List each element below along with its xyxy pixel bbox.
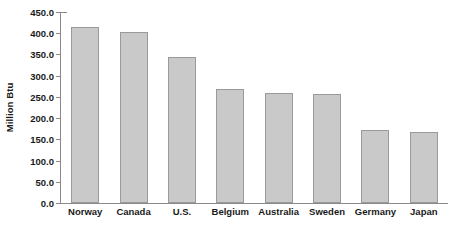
y-axis-tick-label: 0.0 <box>18 198 54 209</box>
x-axis-category-label: U.S. <box>158 206 206 217</box>
bar <box>168 57 196 203</box>
y-axis-title: Million Btu <box>0 0 20 215</box>
bar <box>410 132 438 203</box>
y-axis-tick-labels: 0.050.0100.0150.0200.0250.0300.0350.0400… <box>18 0 54 215</box>
bar-chart: Million Btu 0.050.0100.0150.0200.0250.03… <box>0 0 450 243</box>
y-axis-title-text: Million Btu <box>5 83 16 133</box>
bar-group <box>168 12 196 203</box>
bar-group <box>216 12 244 203</box>
y-axis-tick-label: 300.0 <box>18 70 54 81</box>
bar-group <box>313 12 341 203</box>
bar-group <box>120 12 148 203</box>
x-axis-category-label: Australia <box>255 206 303 217</box>
y-axis-tick-label: 50.0 <box>18 176 54 187</box>
y-axis-tick-label: 250.0 <box>18 91 54 102</box>
x-axis-category-labels: NorwayCanadaU.S.BelgiumAustraliaSwedenGe… <box>61 206 448 226</box>
bar <box>265 93 293 203</box>
y-axis-tick-label: 200.0 <box>18 113 54 124</box>
bar-group <box>71 12 99 203</box>
bar-group <box>361 12 389 203</box>
y-axis-tick-label: 100.0 <box>18 155 54 166</box>
x-axis-category-label: Germany <box>351 206 399 217</box>
bar <box>313 94 341 203</box>
bar <box>120 32 148 203</box>
bar <box>71 27 99 203</box>
bar-group <box>265 12 293 203</box>
x-axis-category-label: Belgium <box>206 206 254 217</box>
bar <box>361 130 389 203</box>
x-axis-category-label: Canada <box>109 206 157 217</box>
y-axis-tick-label: 350.0 <box>18 49 54 60</box>
x-axis-category-label: Sweden <box>303 206 351 217</box>
y-axis-tick-label: 400.0 <box>18 28 54 39</box>
y-axis-tick-label: 150.0 <box>18 134 54 145</box>
y-axis-tick-label: 450.0 <box>18 7 54 18</box>
bar <box>216 89 244 203</box>
x-axis-category-label: Japan <box>400 206 448 217</box>
bar-group <box>410 12 438 203</box>
x-axis-category-label: Norway <box>61 206 109 217</box>
x-axis-line <box>60 203 448 204</box>
plot-area <box>61 12 448 203</box>
